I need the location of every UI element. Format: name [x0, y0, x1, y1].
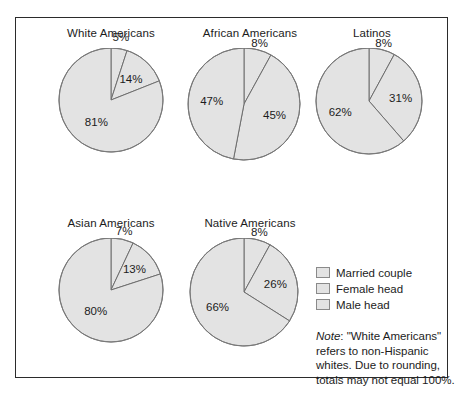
pie-svg	[299, 48, 445, 168]
legend-label: Male head	[336, 299, 390, 311]
pie-graphic-latinos: 8%31%62%	[299, 48, 445, 168]
pie-percent-label: 8%	[251, 226, 268, 238]
pie-percent-label: 5%	[113, 31, 130, 43]
legend-item-male-head: Male head	[316, 298, 456, 311]
chart-legend: Married couple Female head Male head	[316, 266, 456, 314]
chart-note: Note: "White Americans" refers to non-Hi…	[316, 329, 458, 387]
pie-percent-label: 45%	[263, 109, 286, 121]
legend-swatch-icon	[316, 283, 330, 294]
legend-label: Married couple	[336, 267, 412, 279]
legend-swatch-icon	[316, 267, 330, 278]
pie-percent-label: 8%	[251, 37, 268, 49]
pie-percent-label: 62%	[329, 106, 352, 118]
legend-swatch-icon	[316, 299, 330, 310]
legend-item-married-couple: Married couple	[316, 266, 456, 279]
pie-panel-native-americans: Native Americans 8%26%66%	[168, 217, 332, 361]
pie-percent-label: 81%	[85, 116, 108, 128]
pie-percent-label: 31%	[389, 92, 412, 104]
pie-title: Latinos	[299, 27, 445, 39]
legend-label: Female head	[336, 283, 403, 295]
pie-percent-label: 66%	[206, 301, 229, 313]
pie-percent-label: 14%	[119, 73, 142, 85]
chart-frame: White Americans 5%14%81% African America…	[15, 17, 448, 378]
pie-percent-label: 80%	[84, 305, 107, 317]
pie-percent-label: 8%	[375, 37, 392, 49]
pie-percent-label: 26%	[264, 278, 287, 290]
pie-percent-label: 13%	[123, 263, 146, 275]
legend-item-female-head: Female head	[316, 282, 456, 295]
pie-percent-label: 47%	[200, 95, 223, 107]
note-lead-label: Note	[316, 330, 340, 342]
pie-svg	[168, 238, 332, 358]
pie-percent-label: 7%	[116, 225, 133, 237]
pie-panel-latinos: Latinos 8%31%62%	[299, 27, 445, 171]
pie-graphic-native-americans: 8%26%66%	[168, 238, 332, 358]
